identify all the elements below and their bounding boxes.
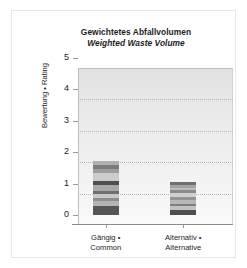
y-tick-2 <box>73 152 78 153</box>
gridline-4 <box>78 99 233 100</box>
y-tick-4 <box>73 89 78 90</box>
y-axis-title: Bewertung • Rating <box>40 36 49 156</box>
category-label-2: Alternativ •Alternative <box>138 233 228 254</box>
bar-2[interactable] <box>170 182 196 215</box>
category-label-line2: Common <box>61 243 151 253</box>
bar-segment <box>93 206 119 214</box>
y-tick-3 <box>73 121 78 122</box>
x-axis-line <box>72 224 233 225</box>
y-tick-5 <box>73 58 78 59</box>
y-tick-label-5: 5 <box>53 52 69 62</box>
category-label-1: Gängig •Common <box>61 233 151 254</box>
chart-title-block: Gewichtetes Abfallvolumen Weighted Waste… <box>32 28 240 49</box>
y-tick-0 <box>73 215 78 216</box>
category-label-line1: Alternativ • <box>165 233 201 242</box>
y-tick-label-2: 2 <box>53 146 69 156</box>
y-tick-label-4: 4 <box>53 83 69 93</box>
category-label-line2: Alternative <box>138 243 228 253</box>
chart-figure: Gewichtetes Abfallvolumen Weighted Waste… <box>0 0 247 268</box>
plot-right-border <box>232 68 233 225</box>
chart-frame: Gewichtetes Abfallvolumen Weighted Waste… <box>11 10 236 258</box>
gridline-3 <box>78 131 233 132</box>
x-tick-2 <box>183 225 184 228</box>
y-tick-label-1: 1 <box>53 178 69 188</box>
bar-segment <box>93 173 119 181</box>
plot-top-border <box>78 68 233 69</box>
y-tick-label-0: 0 <box>53 209 69 219</box>
bar-segment <box>170 210 196 215</box>
chart-title-german: Gewichtetes Abfallvolumen <box>32 28 240 38</box>
y-tick-label-3: 3 <box>53 115 69 125</box>
category-label-line1: Gängig • <box>91 233 120 242</box>
x-tick-1 <box>106 225 107 228</box>
chart-title-english: Weighted Waste Volume <box>32 39 240 49</box>
plot-left-border <box>78 68 79 225</box>
y-tick-1 <box>73 184 78 185</box>
bar-1[interactable] <box>93 161 119 215</box>
